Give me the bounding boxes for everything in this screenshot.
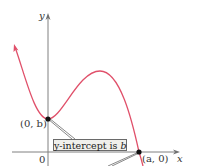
- callout-variable: b: [121, 140, 127, 151]
- function-graph-diagram: y x 0 (0, b) (a, 0) y-intercept is b: [0, 0, 199, 166]
- callout-pointer-y-intercept: [48, 118, 75, 139]
- callout-text: y-intercept is: [54, 140, 121, 151]
- x-intercept-point: [136, 149, 141, 154]
- y-intercept-callout: y-intercept is b: [53, 139, 127, 151]
- y-axis-label: y: [39, 11, 45, 21]
- origin-label: 0: [39, 155, 45, 165]
- y-intercept-label: (0, b): [20, 119, 47, 129]
- callout-pointer-x-intercept: [108, 152, 139, 166]
- x-axis-label: x: [177, 154, 183, 164]
- x-intercept-label: (a, 0): [142, 154, 168, 164]
